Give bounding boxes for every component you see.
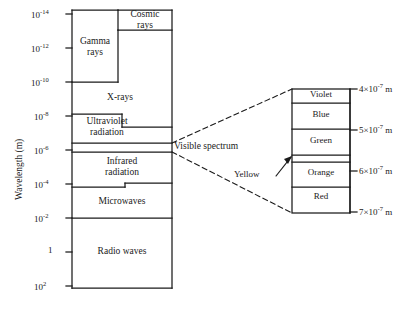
tick-label-9: 102 (34, 280, 46, 293)
tick-label-1: 10-14 (31, 8, 49, 21)
tick-label-6: 10-4 (34, 178, 48, 191)
tick-label-7: 10-2 (34, 212, 48, 225)
band-label-radio-waves: Radio waves (98, 246, 147, 256)
uv-line1: Ultraviolet (86, 116, 127, 127)
tick-exp-6: -4 (43, 178, 48, 185)
uv-line2: radiation (86, 127, 127, 138)
visible-scale-axis (350, 89, 357, 213)
scale-mant-4: 7×10 (359, 207, 378, 217)
band-label-x-rays: X-rays (107, 92, 133, 102)
yellow-label: Yellow (234, 170, 260, 180)
tick-label-4: 10-8 (34, 110, 48, 123)
cosmic-line1: Cosmic (130, 9, 159, 20)
tick-exp-4: -8 (43, 110, 48, 117)
color-label-violet: Violet (310, 90, 332, 100)
scale-label-7e-7: 7×10-7 m (359, 205, 392, 218)
scale-mant-2: 5×10 (359, 125, 378, 135)
cosmic-line2: rays (130, 20, 159, 31)
band-label-gamma-rays: Gamma rays (80, 36, 110, 57)
band-label-microwaves: Microwaves (99, 196, 146, 206)
tick-exp-1: -14 (40, 8, 49, 15)
figure-lines (0, 0, 399, 309)
y-axis-ticks (66, 14, 72, 286)
color-label-green: Green (310, 136, 332, 146)
band-label-cosmic-rays: Cosmic rays (130, 9, 159, 30)
scale-label-6e-7: 6×10-7 m (359, 164, 392, 177)
band-label-infrared: Infrared radiation (105, 156, 139, 177)
scale-unit-1: m (383, 84, 392, 94)
yellow-arrow-head (284, 156, 292, 164)
band-label-ultraviolet: Ultraviolet radiation (86, 116, 127, 137)
tick-label-2: 10-12 (31, 42, 49, 55)
gamma-line2: rays (80, 47, 110, 58)
dashed-lower (172, 152, 292, 213)
tick-exp-9: 2 (43, 280, 46, 287)
tick-exp-2: -12 (40, 42, 49, 49)
y-axis-title: Wavelength (m) (14, 139, 24, 200)
tick-exp-5: -6 (43, 144, 48, 151)
tick-label-5: 10-6 (34, 144, 48, 157)
scale-unit-4: m (383, 207, 392, 217)
tick-label-3: 10-10 (31, 76, 49, 89)
tick-label-8: 1 (48, 246, 53, 256)
scale-unit-2: m (383, 125, 392, 135)
em-spectrum-figure: 10-14 10-12 10-10 10-8 10-6 10-4 10-2 1 … (0, 0, 399, 309)
scale-mant-3: 6×10 (359, 166, 378, 176)
tick-exp-7: -2 (43, 212, 48, 219)
color-label-blue: Blue (313, 110, 330, 120)
color-label-red: Red (314, 192, 329, 202)
visible-spectrum-label: Visible spectrum (174, 141, 238, 151)
scale-mant-1: 4×10 (359, 84, 378, 94)
color-label-orange: Orange (308, 168, 335, 178)
ir-line1: Infrared (105, 156, 139, 167)
gamma-line1: Gamma (80, 36, 110, 47)
scale-label-4e-7: 4×10-7 m (359, 82, 392, 95)
ir-line2: radiation (105, 167, 139, 178)
tick-exp-3: -10 (40, 76, 49, 83)
scale-unit-3: m (383, 166, 392, 176)
dashed-upper (172, 89, 292, 143)
scale-label-5e-7: 5×10-7 m (359, 123, 392, 136)
